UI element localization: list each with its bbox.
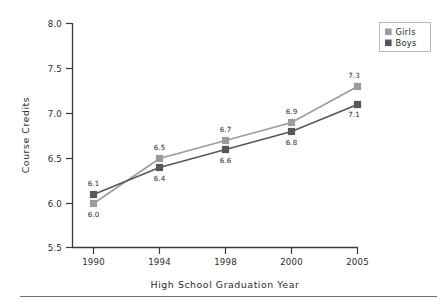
x-axis-ticks	[94, 248, 358, 254]
boys-marker-1998	[222, 146, 229, 153]
y-tick-label-0: 8.0	[48, 19, 62, 29]
boys-label-1990: 6.1	[88, 179, 100, 188]
x-tick-label-1: 1994	[148, 257, 171, 267]
y-tick-label-5: 5.5	[48, 243, 62, 253]
x-tick-label-4: 2005	[346, 257, 369, 267]
boys-marker-2005	[354, 101, 361, 108]
girls-marker-1990	[90, 200, 97, 207]
girls-label-2005: 7.3	[348, 71, 360, 80]
girls-label-2000: 6.9	[286, 107, 298, 116]
axis-lines	[72, 23, 358, 248]
series-girls	[90, 83, 361, 207]
boys-label-1994: 6.4	[154, 174, 166, 183]
x-tick-label-2: 1998	[214, 257, 237, 267]
y-axis-title: Course Credits	[20, 97, 31, 174]
boys-marker-1994	[156, 164, 163, 171]
legend-label-boys[interactable]: Boys	[396, 38, 417, 48]
girls-line	[94, 87, 358, 204]
girls-label-1994: 6.5	[154, 143, 166, 152]
legend-swatch-boys-icon	[385, 40, 392, 47]
girls-marker-2000	[288, 119, 295, 126]
legend: Girls Boys	[380, 23, 431, 52]
series-boys	[90, 101, 361, 198]
girls-marker-1998	[222, 137, 229, 144]
y-axis-tick-labels: 8.0 7.5 7.0 6.5 6.0 5.5	[48, 19, 62, 253]
y-axis-ticks	[66, 24, 72, 248]
boys-label-2005: 7.1	[348, 110, 360, 119]
girls-marker-1994	[156, 155, 163, 162]
chart-figure: 8.0 7.5 7.0 6.5 6.0 5.5 1990 1994 1998 2…	[0, 0, 447, 304]
y-tick-label-1: 7.5	[48, 64, 62, 74]
girls-label-1998: 6.7	[220, 125, 232, 134]
x-tick-label-3: 2000	[280, 257, 303, 267]
legend-label-girls[interactable]: Girls	[396, 27, 416, 37]
boys-marker-2000	[288, 128, 295, 135]
y-tick-label-3: 6.5	[48, 154, 62, 164]
girls-label-1990: 6.0	[88, 210, 100, 219]
y-tick-label-4: 6.0	[48, 199, 62, 209]
boys-marker-1990	[90, 191, 97, 198]
boys-label-2000: 6.8	[286, 138, 298, 147]
data-labels-girls: 6.0 6.5 6.7 6.9 7.3	[88, 71, 360, 219]
legend-swatch-girls-icon	[385, 29, 392, 36]
x-axis-title: High School Graduation Year	[151, 279, 300, 290]
x-tick-label-0: 1990	[82, 257, 105, 267]
x-axis-tick-labels: 1990 1994 1998 2000 2005	[82, 257, 369, 267]
y-tick-label-2: 7.0	[48, 109, 62, 119]
boys-label-1998: 6.6	[220, 156, 232, 165]
girls-marker-2005	[354, 83, 361, 90]
line-chart: 8.0 7.5 7.0 6.5 6.0 5.5 1990 1994 1998 2…	[0, 0, 447, 304]
